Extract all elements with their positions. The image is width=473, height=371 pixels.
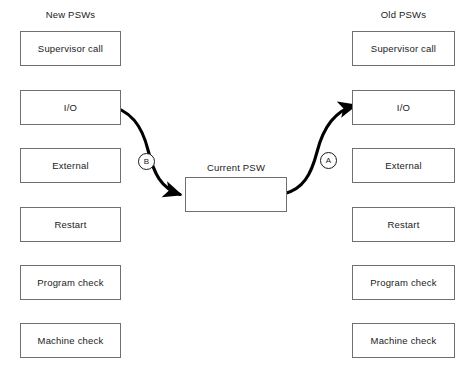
box-label: Machine check	[371, 335, 437, 346]
flow-a-arrow	[280, 106, 355, 198]
old-psw-box-program-check[interactable]: Program check	[352, 265, 455, 300]
current-psw-box[interactable]	[185, 177, 287, 212]
current-psw-label: Current PSW	[185, 162, 287, 173]
column-heading-new-psws: New PSWs	[20, 9, 121, 20]
box-label: Program check	[37, 277, 103, 288]
box-label: I/O	[397, 102, 410, 113]
old-psw-box-supervisor-call[interactable]: Supervisor call	[352, 31, 455, 66]
box-label: Machine check	[38, 335, 104, 346]
flow-marker-b: B	[138, 153, 155, 170]
new-psw-box-supervisor-call[interactable]: Supervisor call	[20, 31, 121, 66]
old-psw-box-external[interactable]: External	[352, 148, 455, 183]
flow-marker-a-label: A	[326, 156, 331, 165]
column-heading-old-psws: Old PSWs	[352, 9, 455, 20]
flow-marker-a: A	[320, 152, 337, 169]
box-label: External	[52, 160, 88, 171]
old-psw-box-machine-check[interactable]: Machine check	[352, 323, 455, 358]
box-label: Restart	[387, 219, 419, 230]
box-label: Supervisor call	[38, 43, 103, 54]
box-label: Program check	[370, 277, 436, 288]
new-psw-box-external[interactable]: External	[20, 148, 121, 183]
box-label: External	[385, 160, 421, 171]
box-label: Supervisor call	[371, 43, 436, 54]
new-psw-box-restart[interactable]: Restart	[20, 207, 121, 242]
flow-marker-b-label: B	[144, 157, 149, 166]
box-label: Restart	[54, 219, 86, 230]
new-psw-box-machine-check[interactable]: Machine check	[20, 323, 121, 358]
new-psw-box-io[interactable]: I/O	[20, 90, 121, 125]
box-label: I/O	[64, 102, 77, 113]
psw-interrupt-diagram: New PSWs Old PSWs Supervisor call I/O Ex…	[0, 0, 473, 371]
new-psw-box-program-check[interactable]: Program check	[20, 265, 121, 300]
flow-a-path	[285, 106, 356, 194]
old-psw-box-restart[interactable]: Restart	[352, 207, 455, 242]
old-psw-box-io[interactable]: I/O	[352, 90, 455, 125]
